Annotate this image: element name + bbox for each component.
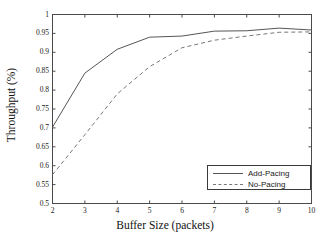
x-axis-title: Buffer Size (packets) [0, 219, 330, 231]
y-tick-label: 0.85 [18, 67, 49, 75]
y-tick-label: 0.7 [18, 124, 49, 132]
x-tick-label: 10 [308, 207, 316, 215]
plot-canvas [0, 0, 330, 239]
legend-label-no-pacing: No-Pacing [248, 180, 285, 189]
chart-legend: Add-Pacing No-Pacing [207, 165, 311, 190]
y-axis-title: Throughput (%) [5, 68, 17, 142]
x-tick-label: 9 [277, 207, 281, 215]
chart-figure: 0.50.550.60.650.70.750.80.850.90.951 234… [0, 0, 330, 239]
legend-dashed-line-icon [213, 179, 243, 189]
y-tick-label: 0.55 [18, 181, 49, 189]
x-tick-label: 8 [245, 207, 249, 215]
y-tick-label: 0.95 [18, 30, 49, 38]
y-tick-label: 0.5 [18, 200, 49, 208]
y-tick-label: 0.9 [18, 49, 49, 57]
x-tick-label: 5 [148, 207, 152, 215]
y-axis-title-wrapper: Throughput (%) [2, 0, 20, 210]
y-tick-label: 1 [18, 11, 49, 19]
y-tick-label: 0.75 [18, 105, 49, 113]
y-tick-label: 0.8 [18, 86, 49, 94]
x-tick-label: 3 [83, 207, 87, 215]
legend-label-add-pacing: Add-Pacing [248, 169, 289, 178]
y-tick-label: 0.6 [18, 162, 49, 170]
x-tick-label: 6 [180, 207, 184, 215]
x-tick-label: 4 [115, 207, 119, 215]
y-tick-label: 0.65 [18, 143, 49, 151]
legend-item-no-pacing: No-Pacing [208, 178, 312, 190]
x-tick-label: 2 [51, 207, 55, 215]
x-tick-label: 7 [213, 207, 217, 215]
legend-solid-line-icon [213, 168, 243, 178]
